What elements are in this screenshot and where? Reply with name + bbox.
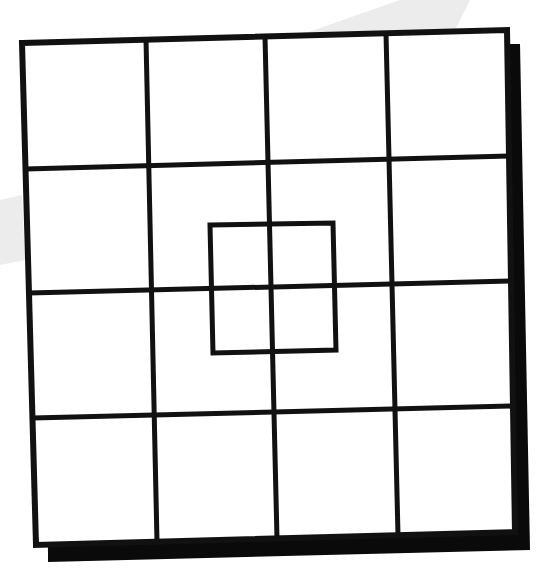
puzzle-canvas [0,0,556,582]
wm-shape-2 [0,195,25,265]
square-grid-figure [0,0,556,582]
